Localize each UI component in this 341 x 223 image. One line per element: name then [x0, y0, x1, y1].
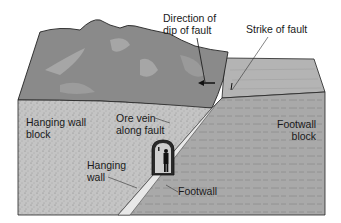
label-ore-vein: Ore vein along fault: [116, 113, 164, 136]
miner-icon: [164, 149, 168, 153]
label-footwall: Footwall: [178, 186, 217, 198]
label-footwall-block: Footwall block: [277, 119, 316, 142]
label-hanging-wall: Hanging wall: [87, 160, 126, 183]
label-hanging-wall-block: Hanging wall block: [26, 117, 86, 140]
label-dip-direction: Direction of dip of fault: [163, 13, 216, 36]
label-strike-of-fault: Strike of fault: [246, 24, 307, 36]
mine-tunnel: [152, 140, 174, 175]
fault-diagram: Direction of dip of fault Strike of faul…: [0, 0, 341, 223]
footwall-top-surface: [222, 58, 325, 98]
